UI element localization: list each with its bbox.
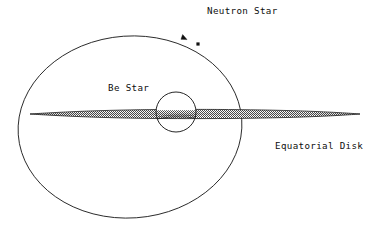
label-equatorial-disk: Equatorial Disk xyxy=(275,140,363,151)
neutron-star-dot xyxy=(196,42,199,45)
label-be-star: Be Star xyxy=(108,82,149,93)
be-star-group xyxy=(156,92,196,132)
diagram-canvas: Neutron Star Be Star Equatorial Disk xyxy=(0,0,379,228)
label-neutron-star: Neutron Star xyxy=(207,5,278,16)
binary-system-diagram: Neutron Star Be Star Equatorial Disk xyxy=(0,0,379,228)
